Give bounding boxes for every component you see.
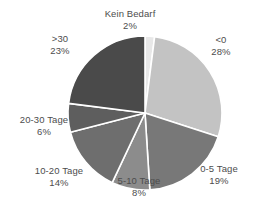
pie-label-lt0: <0 28% [192,34,250,57]
pie-label-name: 20-30 Tage [2,114,86,126]
pie-label-value: 23% [32,45,88,57]
pie-label-name: Kein Bedarf [82,8,178,20]
pie-label-name: 5-10 Tage [103,175,175,187]
pie-label-value: 14% [16,177,102,189]
pie-label-value: 6% [2,126,86,138]
pie-label-0-5-tage: 0-5 Tage 19% [186,163,252,186]
pie-label-gt30: >30 23% [32,33,88,56]
pie-label-value: 8% [103,187,175,199]
pie-label-name: >30 [32,33,88,45]
pie-chart: Kein Bedarf 2% <0 28% 0-5 Tage 19% 5-10 … [0,0,255,217]
pie-label-name: 10-20 Tage [16,165,102,177]
pie-label-value: 19% [186,175,252,187]
pie-label-5-10-tage: 5-10 Tage 8% [103,175,175,198]
pie-label-name: <0 [192,34,250,46]
pie-label-10-20-tage: 10-20 Tage 14% [16,165,102,188]
pie-label-value: 2% [82,20,178,32]
pie-label-name: 0-5 Tage [186,163,252,175]
pie-label-kein-bedarf: Kein Bedarf 2% [82,8,178,31]
pie-label-value: 28% [192,46,250,58]
pie-label-20-30-tage: 20-30 Tage 6% [2,114,86,137]
